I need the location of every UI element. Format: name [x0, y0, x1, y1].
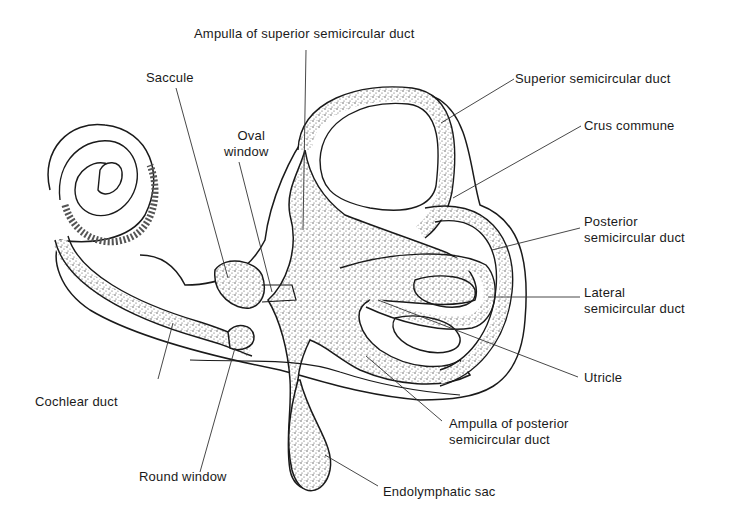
label-cochlear-duct: Cochlear duct	[35, 394, 118, 410]
label-superior-semicircular-duct: Superior semicircular duct	[515, 71, 670, 87]
label-utricle: Utricle	[584, 370, 622, 386]
label-ampulla-posterior-line1: Ampulla of posterior	[449, 416, 569, 432]
round-window-region	[228, 326, 254, 350]
label-round-window: Round window	[139, 469, 227, 485]
cochlea	[55, 141, 252, 356]
label-posterior-line2: semicircular duct	[584, 230, 685, 246]
label-lateral-line1: Lateral	[584, 285, 685, 301]
label-ampulla-posterior: Ampulla of posterior semicircular duct	[449, 416, 569, 448]
saccule	[215, 261, 265, 308]
label-oval-window-line2: window	[224, 144, 269, 160]
label-oval-window-line1: Oval	[224, 128, 269, 144]
label-endolymphatic-sac: Endolymphatic sac	[383, 484, 496, 500]
label-posterior-semicircular-duct: Posterior semicircular duct	[584, 214, 685, 246]
label-ampulla-posterior-line2: semicircular duct	[449, 432, 569, 448]
label-posterior-line1: Posterior	[584, 214, 685, 230]
label-ampulla-superior: Ampulla of superior semicircular duct	[194, 26, 415, 42]
label-lateral-line2: semicircular duct	[584, 301, 685, 317]
label-lateral-semicircular-duct: Lateral semicircular duct	[584, 285, 685, 317]
endolymphatic-sac	[289, 380, 331, 491]
label-crus-commune: Crus commune	[584, 118, 675, 134]
label-oval-window: Oval window	[224, 128, 269, 160]
label-saccule: Saccule	[146, 70, 194, 86]
